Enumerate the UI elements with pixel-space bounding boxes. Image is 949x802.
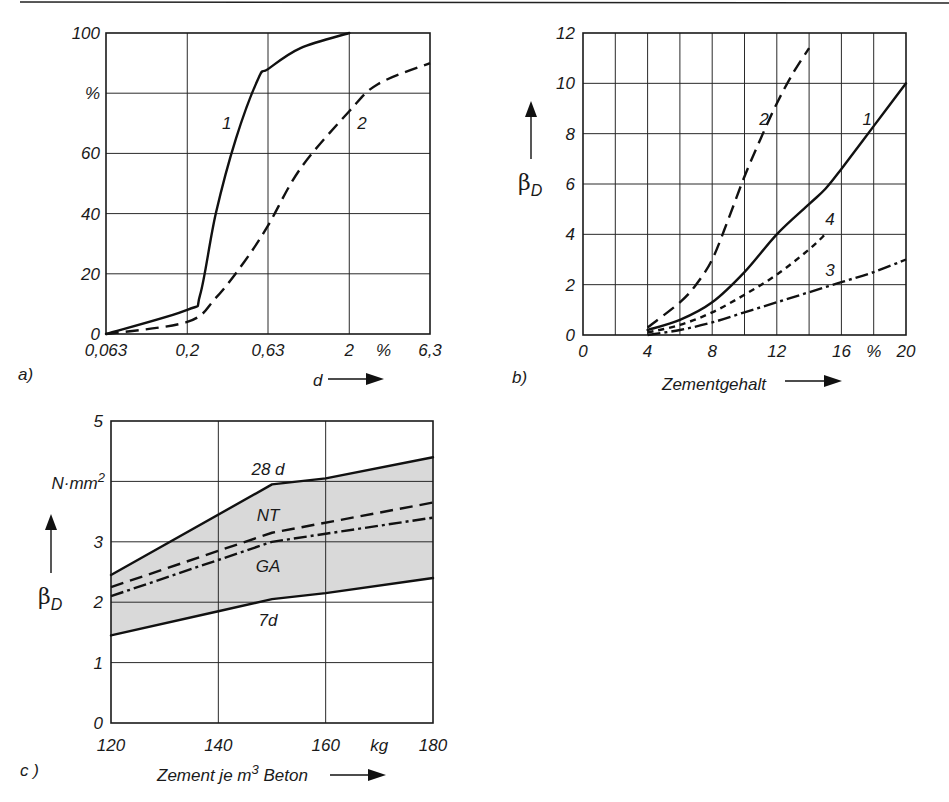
y-tick-label: 10	[556, 74, 575, 93]
y-tick-label: 60	[81, 144, 100, 163]
x-unit-label: %	[376, 341, 391, 360]
x-tick-label: kg	[370, 736, 389, 755]
y-axis-arrow-icon	[525, 101, 537, 117]
x-tick-label: %	[866, 342, 881, 361]
y-tick-label: 5	[94, 412, 104, 431]
x-tick-label: 180	[419, 736, 448, 755]
y-tick-label: 1	[94, 654, 103, 673]
y-tick-label: 12	[556, 24, 575, 43]
x-axis-arrow-icon	[368, 769, 386, 781]
x-tick-label: 8	[707, 342, 717, 361]
y-tick-label: 3	[94, 533, 104, 552]
chart-b-strength-vs-cement: 0246810120481216%202143βDb)Zementgehalt	[512, 24, 916, 394]
x-axis-title: Zement je m3 Beton	[156, 762, 308, 785]
x-tick-label: 0,63	[251, 341, 285, 360]
curve-2	[648, 48, 810, 327]
y-tick-label: 0	[94, 714, 104, 733]
y-tick-label: 40	[81, 205, 100, 224]
chart-a-sieve-curves: 0204060%1000,0630,20,6326,3%12a)d	[18, 24, 442, 390]
curve-label-4: 4	[825, 210, 834, 229]
panel-label-c: c )	[20, 761, 39, 780]
x-tick-label: 120	[97, 736, 126, 755]
panel-label-a: a)	[18, 365, 33, 384]
x-axis-title: d	[313, 371, 323, 390]
x-tick-label: 140	[204, 736, 233, 755]
curve-1	[106, 33, 349, 334]
curve-label-2: 2	[356, 114, 367, 133]
figure-canvas: 0204060%1000,0630,20,6326,3%12a)d 024681…	[0, 0, 949, 802]
curve-label-NT: NT	[257, 506, 281, 525]
y-tick-label: 8	[566, 125, 576, 144]
y-tick-label: 6	[566, 175, 576, 194]
curve-label-1: 1	[863, 110, 872, 129]
x-axis-title: Zementgehalt	[661, 375, 767, 394]
x-tick-label: 4	[643, 342, 652, 361]
curve-label-GA: GA	[256, 557, 281, 576]
y-tick-label: 2	[93, 593, 104, 612]
x-axis-arrow-icon	[824, 375, 842, 387]
x-tick-label: 0,2	[175, 341, 199, 360]
x-tick-label: 16	[832, 342, 851, 361]
x-tick-label: 160	[311, 736, 340, 755]
curve-label-3: 3	[825, 261, 835, 280]
curve-label-7d: 7d	[259, 611, 278, 630]
y-tick-label: 2	[565, 276, 576, 295]
x-tick-label: 0	[578, 342, 588, 361]
y-axis-title: βD	[38, 584, 63, 613]
y-tick-label: 100	[72, 24, 101, 43]
panel-label-b: b)	[512, 368, 527, 387]
x-tick-label: 0,063	[85, 341, 128, 360]
curve-label-2: 2	[758, 110, 769, 129]
x-axis-arrow-icon	[366, 373, 384, 385]
y-tick-label: 4	[566, 225, 575, 244]
y-axis-title: βD	[518, 170, 543, 199]
x-tick-label: 6,3	[418, 341, 442, 360]
curve-4	[648, 234, 826, 332]
curve-label-1: 1	[222, 114, 231, 133]
y-tick-label: %	[85, 84, 100, 103]
chart-c-strength-vs-cement-per-m3: 0123N·mm25120140160kg18028 dNTGA7dβDc )Z…	[20, 412, 448, 785]
x-tick-label: 20	[896, 342, 916, 361]
top-rule	[20, 2, 949, 3]
y-unit-label: N·mm2	[52, 470, 106, 493]
curve-label-28d: 28 d	[250, 460, 285, 479]
y-tick-label: 20	[80, 265, 100, 284]
y-tick-label: 0	[566, 326, 576, 345]
x-tick-label: 12	[767, 342, 786, 361]
y-axis-arrow-icon	[45, 514, 57, 530]
x-tick-label: 2	[344, 341, 355, 360]
